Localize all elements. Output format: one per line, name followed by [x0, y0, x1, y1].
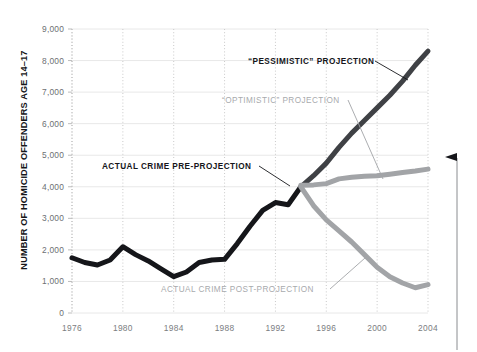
- y-tick-label-3000: 3,000: [42, 213, 64, 223]
- leader-line-actual-post: [330, 258, 365, 289]
- horizontal-gridlines: [72, 29, 428, 313]
- y-tick-label-5000: 5,000: [42, 150, 64, 160]
- y-tick-label-6000: 6,000: [42, 119, 64, 129]
- series-line: [72, 187, 301, 277]
- homicide-offenders-chart: NUMBER OF HOMICIDE OFFENDERS AGE 14–17 0…: [0, 0, 477, 352]
- x-tick-label-1988: 1988: [215, 323, 235, 333]
- left-arrowhead-icon: [445, 153, 457, 161]
- y-tick-label-9000: 9,000: [42, 24, 64, 34]
- vertical-gridlines: [72, 29, 428, 313]
- y-tick-label-0: 0: [59, 308, 64, 318]
- y-tick-label-8000: 8,000: [42, 56, 64, 66]
- annotation-pessimistic: “PESSIMISTIC” PROJECTION: [248, 57, 374, 66]
- x-tick-label-1996: 1996: [316, 323, 336, 333]
- x-tick-label-2000: 2000: [367, 323, 387, 333]
- x-tick-label-1984: 1984: [164, 323, 184, 333]
- leader-line-pessimistic: [375, 61, 408, 80]
- series-line: [301, 187, 428, 288]
- chart-canvas: 01,0002,0003,0004,0005,0006,0007,0008,00…: [0, 0, 477, 352]
- y-tick-label-2000: 2,000: [42, 245, 64, 255]
- y-tick-label-7000: 7,000: [42, 87, 64, 97]
- x-tick-label-2004: 2004: [418, 323, 438, 333]
- annotation-optimistic: “OPTIMISTIC” PROJECTION: [222, 96, 340, 105]
- y-axis-ticks: 01,0002,0003,0004,0005,0006,0007,0008,00…: [42, 24, 72, 318]
- leader-line-optimistic: [348, 100, 383, 179]
- annotation-actual-post: ACTUAL CRIME POST-PROJECTION: [161, 285, 314, 294]
- leader-line-actual-pre: [259, 166, 290, 186]
- right-edge-pointer: [445, 153, 457, 350]
- y-tick-label-1000: 1,000: [42, 276, 64, 286]
- x-tick-label-1976: 1976: [62, 323, 82, 333]
- x-tick-label-1980: 1980: [113, 323, 133, 333]
- x-axis-ticks: 19761980198419881992199620002004: [62, 323, 438, 333]
- series-line: [301, 51, 428, 187]
- annotation-actual-pre: ACTUAL CRIME PRE-PROJECTION: [102, 162, 251, 171]
- y-tick-label-4000: 4,000: [42, 182, 64, 192]
- x-tick-label-1992: 1992: [266, 323, 286, 333]
